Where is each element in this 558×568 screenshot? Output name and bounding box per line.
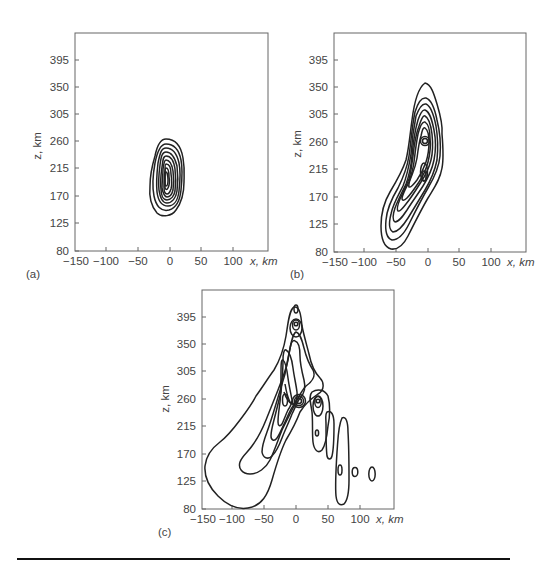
- ytick-label: 395: [177, 311, 196, 323]
- ytick-label: 170: [309, 191, 328, 203]
- ytick-label: 350: [309, 81, 328, 93]
- panel-label: (a): [26, 268, 40, 280]
- xtick-label: −150: [63, 255, 89, 267]
- xtick-label: 50: [322, 513, 335, 525]
- ytick-label: 170: [50, 190, 69, 202]
- panel-b-x-tick-labels: −150 −100 −50 0 50 100: [322, 256, 501, 268]
- panel-a-frame: [75, 33, 268, 251]
- xtick-label: −150: [190, 513, 216, 525]
- panel-b-contours: [381, 83, 443, 249]
- ytick-label: 305: [177, 365, 196, 377]
- panel-label: (c): [158, 526, 172, 538]
- ytick-label: 215: [309, 163, 328, 175]
- ytick-label: 125: [177, 475, 196, 487]
- panel-c: 80 125 170 215 260 305 350 395 −150 −100…: [158, 290, 404, 538]
- xtick-label: −150: [322, 256, 348, 268]
- xtick-label: 0: [425, 256, 431, 268]
- panel-c-x-tick-labels: −150 −100 −50 0 50 100: [190, 513, 370, 525]
- panel-a: 80 125 170 215 260 305 350 395 −150 −100…: [26, 33, 278, 280]
- ytick-label: 260: [177, 393, 196, 405]
- ytick-label: 260: [50, 135, 69, 147]
- ytick-label: 170: [177, 448, 196, 460]
- ytick-label: 215: [177, 420, 196, 432]
- panel-b: 80 125 170 215 260 305 350 395 −150 −100…: [290, 33, 535, 280]
- xtick-label: −100: [351, 256, 377, 268]
- ytick-label: 395: [50, 54, 69, 66]
- xtick-label: 100: [481, 256, 500, 268]
- panel-c-y-ticks: [202, 317, 206, 509]
- y-axis-label: z, km: [291, 130, 303, 157]
- xtick-label: −50: [254, 513, 274, 525]
- panel-b-y-tick-labels: 80 125 170 215 260 305 350 395: [309, 54, 328, 258]
- xtick-label: 50: [195, 255, 208, 267]
- xtick-label: 100: [350, 513, 369, 525]
- xtick-label: 100: [223, 255, 242, 267]
- x-axis-label: x, km: [249, 255, 278, 267]
- xtick-label: −50: [386, 256, 406, 268]
- ytick-label: 125: [309, 218, 328, 230]
- panel-c-contours: [205, 305, 375, 508]
- xtick-label: 0: [167, 255, 173, 267]
- figure-canvas: 80 125 170 215 260 305 350 395 −150 −100…: [0, 0, 558, 568]
- xtick-label: −100: [93, 255, 119, 267]
- ytick-label: 395: [309, 54, 328, 66]
- xtick-label: 0: [293, 513, 299, 525]
- panel-a-contours: [150, 139, 184, 216]
- ytick-label: 350: [177, 338, 196, 350]
- ytick-label: 305: [309, 108, 328, 120]
- panel-label: (b): [290, 268, 304, 280]
- ytick-label: 260: [309, 136, 328, 148]
- x-axis-label: x, km: [375, 513, 404, 525]
- panel-a-y-tick-labels: 80 125 170 215 260 305 350 395: [50, 54, 69, 257]
- ytick-label: 215: [50, 162, 69, 174]
- panel-c-y-tick-labels: 80 125 170 215 260 305 350 395: [177, 311, 196, 515]
- xtick-label: 50: [453, 256, 466, 268]
- panel-b-y-ticks: [334, 60, 338, 252]
- xtick-label: −50: [128, 255, 148, 267]
- panel-b-x-ticks: [364, 248, 491, 252]
- ytick-label: 305: [50, 108, 69, 120]
- panel-a-x-ticks: [106, 247, 233, 251]
- panel-a-x-tick-labels: −150 −100 −50 0 50 100: [63, 255, 243, 267]
- ytick-label: 350: [50, 81, 69, 93]
- x-axis-label: x, km: [506, 256, 535, 268]
- panel-a-y-ticks: [75, 60, 79, 251]
- y-axis-label: z, km: [31, 132, 43, 159]
- ytick-label: 125: [50, 217, 69, 229]
- y-axis-label: z, km: [159, 385, 171, 412]
- xtick-label: −100: [219, 513, 245, 525]
